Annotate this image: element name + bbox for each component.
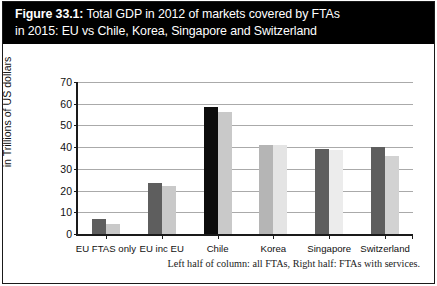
x-tick-mark xyxy=(273,234,274,239)
x-axis-category-label: EU FTAS only xyxy=(76,243,136,254)
bar-group[interactable]: EU FTAS only xyxy=(78,82,134,234)
x-axis-category-label: Singapore xyxy=(307,243,351,254)
bar-ftas-with-services[interactable] xyxy=(106,224,120,234)
x-tick-mark xyxy=(106,234,107,239)
figure-container: Figure 33.1: Total GDP in 2012 of market… xyxy=(0,0,437,286)
figure-title-line1: Total GDP in 2012 of markets covered by … xyxy=(83,7,340,21)
x-tick-mark xyxy=(385,234,386,239)
y-axis-title: Total 2012 GDP of partner countries in T… xyxy=(0,36,23,188)
x-axis-category-label: Korea xyxy=(261,243,287,254)
y-tick-mark xyxy=(74,234,78,235)
y-tick-label: 70 xyxy=(60,76,72,88)
y-tick-label: 40 xyxy=(60,141,72,153)
bar-ftas-with-services[interactable] xyxy=(273,145,287,234)
x-axis-category-label: EU inc EU xyxy=(140,243,184,254)
figure-number-label: Figure 33.1: xyxy=(15,7,83,21)
x-tick-mark xyxy=(329,234,330,239)
y-tick-label: 20 xyxy=(60,185,72,197)
bar-ftas-with-services[interactable] xyxy=(329,150,343,234)
x-tick-mark xyxy=(162,234,163,239)
x-tick-mark xyxy=(218,234,219,239)
bar-all-ftas[interactable] xyxy=(371,147,385,234)
bar-all-ftas[interactable] xyxy=(148,183,162,234)
bar-all-ftas[interactable] xyxy=(204,107,218,234)
bar-groups: EU FTAS onlyEU inc EUChileKoreaSingapore… xyxy=(78,82,413,234)
bar-group[interactable]: Singapore xyxy=(301,82,357,234)
y-tick-label: 0 xyxy=(66,228,72,240)
chart-footnote: Left half of column: all FTAs, Right hal… xyxy=(3,258,420,269)
page-title: Figure 33.1: Total GDP in 2012 of market… xyxy=(15,6,424,39)
bar-group[interactable]: Switzerland xyxy=(357,82,413,234)
y-tick-label: 10 xyxy=(60,206,72,218)
bar-ftas-with-services[interactable] xyxy=(162,186,176,234)
plot-area: 010203040506070 EU FTAS onlyEU inc EUChi… xyxy=(76,82,413,236)
x-axis-category-label: Chile xyxy=(207,243,229,254)
bar-group[interactable]: EU inc EU xyxy=(134,82,190,234)
x-axis-category-label: Switzerland xyxy=(360,243,410,254)
bar-group[interactable]: Korea xyxy=(245,82,301,234)
figure-title-banner: Figure 33.1: Total GDP in 2012 of market… xyxy=(3,2,434,44)
x-tick-mark-end xyxy=(412,234,413,239)
bar-ftas-with-services[interactable] xyxy=(385,156,399,234)
bar-group[interactable]: Chile xyxy=(190,82,246,234)
y-tick-label: 30 xyxy=(60,163,72,175)
y-axis-title-line2: in Trillions of US dollars xyxy=(1,57,13,168)
figure-title-line2: in 2015: EU vs Chile, Korea, Singapore a… xyxy=(15,24,317,38)
bar-all-ftas[interactable] xyxy=(259,145,273,234)
chart-area: Total 2012 GDP of partner countries in T… xyxy=(3,44,434,283)
bar-ftas-with-services[interactable] xyxy=(218,112,232,234)
y-tick-label: 50 xyxy=(60,119,72,131)
bar-all-ftas[interactable] xyxy=(315,149,329,234)
bar-all-ftas[interactable] xyxy=(92,219,106,234)
y-tick-label: 60 xyxy=(60,98,72,110)
